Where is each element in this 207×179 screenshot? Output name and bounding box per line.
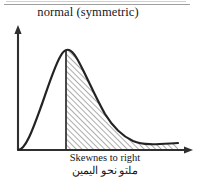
arabic-caption: ملتو نحو اليمين [18, 163, 192, 177]
figure-root: normal (symmetric) [0, 0, 207, 179]
y-axis [14, 25, 21, 150]
